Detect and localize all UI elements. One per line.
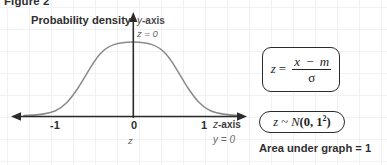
formula-equals: = — [276, 61, 289, 77]
formula-m-symbol: m — [320, 54, 329, 69]
x-tick-label-one: 1 — [194, 120, 214, 131]
figure-container: Figure 2 Probability density y-axis z = … — [0, 0, 387, 165]
x-axis-left-arrow — [11, 112, 21, 121]
y-axis-label-plain: -axis — [142, 15, 165, 26]
formula-x-symbol: x — [294, 54, 300, 69]
z-score-formula-box: z = x − m σ — [262, 47, 340, 92]
x-axis-label: z-axis — [213, 120, 241, 130]
dist-z-symbol: z — [273, 115, 278, 129]
formula-fraction: x − m σ — [292, 55, 331, 84]
x-axis-equation: y = 0 — [213, 135, 235, 145]
dist-tilde: ~ — [281, 115, 288, 129]
dist-close-paren: ) — [326, 115, 330, 129]
axis-variable-label: z — [128, 136, 133, 146]
y-axis-equation: z = 0 — [137, 29, 158, 39]
formula-minus: − — [303, 54, 316, 69]
normal-distribution-plot: Probability density y-axis z = 0 -1 0 1 … — [0, 0, 260, 165]
dist-comma: , — [310, 115, 313, 129]
distribution-pill-box: z ~ N(0, 12) — [259, 111, 345, 133]
distribution-notation: z ~ N(0, 12) — [273, 114, 330, 130]
formula-numerator: x − m — [292, 55, 331, 69]
x-tick-label-zero: 0 — [124, 120, 144, 131]
x-axis-label-plain: -axis — [218, 119, 241, 130]
dist-n-symbol: N — [291, 115, 299, 129]
probability-density-label: Probability density — [31, 15, 131, 26]
y-axis-label: y-axis — [137, 16, 165, 26]
area-under-graph-note: Area under graph = 1 — [259, 142, 371, 154]
formula-denominator: σ — [308, 70, 315, 84]
x-tick-label-neg1: -1 — [45, 120, 65, 131]
z-score-formula: z = x − m σ — [271, 55, 331, 84]
